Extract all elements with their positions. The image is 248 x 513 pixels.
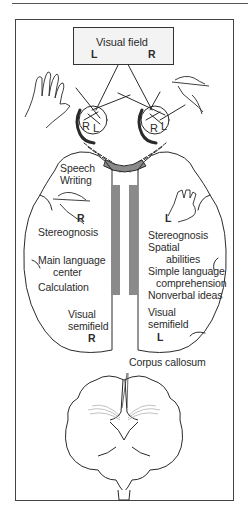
visual-field-left-label: L xyxy=(91,49,97,61)
left-semifield-label: semifield xyxy=(68,321,109,333)
corpus-callosum-band-right xyxy=(129,185,138,295)
right-eye-l-label: L xyxy=(161,121,167,133)
left-function-calculation: Calculation xyxy=(38,282,89,294)
left-function-center: center xyxy=(53,267,82,279)
left-function-writing: Writing xyxy=(60,175,92,187)
left-visual-label: Visual xyxy=(68,309,96,321)
right-hand-pen-icon xyxy=(172,76,209,114)
visual-field-title: Visual field xyxy=(96,37,148,49)
right-visual-label: Visual xyxy=(148,307,176,319)
right-function-comprehension: comprehension xyxy=(156,278,227,290)
visual-field-right-label: R xyxy=(148,49,155,61)
right-semifield-label: semifield xyxy=(148,319,189,331)
left-eye-l-label: L xyxy=(93,123,99,135)
left-function-stereognosis: Stereognosis xyxy=(38,227,98,239)
right-function-stereognosis: Stereognosis xyxy=(148,230,208,242)
right-function-spatial: Spatial xyxy=(148,242,179,254)
right-eye-r-label: R xyxy=(150,123,158,135)
left-visual-side: R xyxy=(88,333,95,345)
left-hand-icon xyxy=(25,72,70,128)
right-hand-label: L xyxy=(165,213,171,225)
left-function-main-language: Main language xyxy=(38,255,106,267)
corpus-callosum-band-left xyxy=(111,185,120,295)
corpus-callosum-label: Corpus callosum xyxy=(129,357,206,369)
optic-chiasm xyxy=(104,160,146,172)
palm-hand-icon xyxy=(168,190,196,222)
right-function-simple-language: Simple language xyxy=(148,266,225,278)
left-hand-label: R xyxy=(77,213,84,225)
left-eye-r-label: R xyxy=(82,121,90,133)
right-function-abilities: abilities xyxy=(166,254,200,266)
right-function-nonverbal: Nonverbal ideas xyxy=(148,290,222,302)
left-function-speech: Speech xyxy=(60,163,95,175)
right-visual-side: L xyxy=(157,332,163,344)
